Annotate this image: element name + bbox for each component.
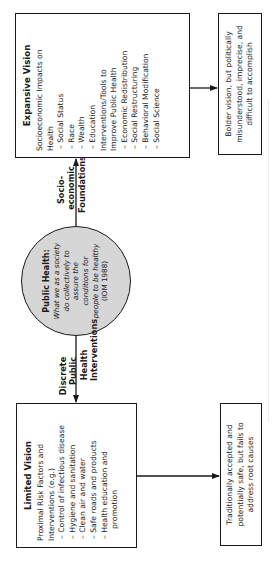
limited-item: – Hygiene and sanitation — [68, 404, 79, 541]
circle-line-emphasis: be healthy — [91, 244, 100, 282]
limited-item-continued: promotion — [110, 404, 121, 541]
expansive-vision-box: Expansive Vision Socioeconomic Impacts o… — [15, 13, 190, 158]
limited-vision-title: Limited Vision — [23, 404, 34, 547]
limited-line: Interventions (e.g.) — [47, 404, 58, 541]
expansive-line: Health — [46, 14, 57, 151]
circle-line: assure the — [71, 262, 81, 300]
expansive-item: – Education — [88, 14, 99, 151]
limited-item: – Clean air and water — [78, 404, 89, 541]
expansive-line: Improve Public Health — [109, 14, 120, 151]
label-line: Interventions — [89, 337, 99, 381]
expansive-line: Socioeconomic Impacts on — [35, 14, 46, 151]
circle-line: conditions for — [81, 256, 91, 305]
diagram-canvas: Limited Vision Proximal Risk Factors and… — [0, 0, 280, 571]
expansive-item: – Race — [67, 14, 78, 151]
limited-item: – Control of infectious disease — [57, 404, 68, 541]
limited-vision-box: Limited Vision Proximal Risk Factors and… — [16, 403, 137, 548]
public-health-definition-circle: Public Health: What we as a society do c… — [21, 226, 131, 336]
expansive-vision-list: Socioeconomic Impacts on Health – Social… — [33, 14, 162, 157]
circle-line: do collectively to — [62, 250, 72, 311]
expansive-line: Interventions/Tools to — [99, 14, 110, 151]
expansive-item: – Behavioral Modification — [141, 14, 152, 151]
figure-caption-faint — [268, 101, 275, 421]
label-line: Discrete — [58, 337, 68, 415]
limited-item: – Health education and — [100, 404, 111, 541]
expansive-item: – Wealth — [77, 14, 88, 151]
label-line: Socio- — [56, 159, 66, 221]
label-line: Health — [79, 337, 89, 393]
expansive-item: – Social Restructuring — [130, 14, 141, 151]
expansive-vision-outcome-text: Bolder vision, but politically misunders… — [224, 20, 255, 148]
limited-vision-list: Proximal Risk Factors and Interventions … — [34, 404, 121, 547]
label-line: economic — [66, 159, 76, 217]
circle-line: What we as a society — [52, 243, 62, 319]
limited-vision-outcome-text: Traditionally accepted and potentially s… — [225, 410, 256, 539]
circle-line-prefix: people to — [91, 282, 100, 318]
expansive-item: – Social Status — [56, 14, 67, 151]
circle-line: people to be healthy — [91, 244, 101, 318]
limited-item: – Safe roads and products — [89, 404, 100, 541]
discrete-interventions-label: Discrete Public Health Interventions — [58, 337, 100, 401]
socioeconomic-foundations-label: Socio- economic Foundations — [56, 159, 87, 221]
circle-citation: (IOM 1988) — [100, 261, 110, 301]
label-line: Foundations — [77, 159, 87, 213]
limited-line: Proximal Risk Factors and — [36, 404, 47, 541]
expansive-vision-outcome-box: Bolder vision, but politically misunders… — [218, 13, 262, 155]
limited-vision-outcome-box: Traditionally accepted and potentially s… — [220, 403, 262, 546]
expansive-item: – Economic Redistribution — [120, 14, 131, 151]
label-line: Public — [68, 337, 78, 405]
expansive-vision-title: Expansive Vision — [22, 14, 33, 157]
circle-title: Public Health: — [42, 249, 52, 312]
expansive-item: – Social Science — [152, 14, 163, 151]
